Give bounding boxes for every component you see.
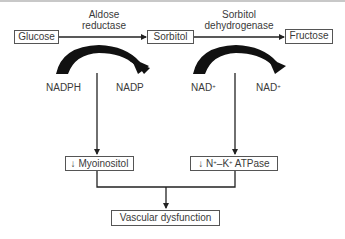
- node-fructose-label: Fructose: [290, 30, 329, 41]
- enzyme-aldose-reductase: Aldose reductase: [72, 9, 136, 31]
- decrease-arrow-icon: ↓: [71, 158, 76, 169]
- cofactor-nad-in-sup: +: [212, 83, 216, 89]
- atpase-sup1: +: [213, 159, 217, 165]
- curved-arrow-nadph-nadp-icon: [56, 45, 150, 74]
- enzyme-aldose-line2: reductase: [72, 20, 136, 31]
- node-glucose: Glucose: [14, 30, 59, 44]
- atpase-sup2: +: [229, 159, 233, 165]
- enzyme-sdh-line2: dehydrogenase: [196, 20, 282, 31]
- enzyme-aldose-line1: Aldose: [72, 9, 136, 20]
- cofactor-nad-in: NAD+: [191, 82, 216, 93]
- cofactor-nad-in-text: NAD: [191, 82, 212, 93]
- node-na-k-atpase: ↓ N+–K+ ATPase: [190, 156, 278, 171]
- enzyme-sdh-line1: Sorbitol: [196, 9, 282, 20]
- node-vascular-label: Vascular dysfunction: [120, 212, 212, 223]
- cofactor-nad-out-text: NAD: [256, 82, 277, 93]
- node-fructose: Fructose: [285, 29, 333, 44]
- atpase-k: –K: [217, 158, 229, 169]
- merge-connector: [97, 170, 235, 187]
- node-myoinositol-label: Myoinositol: [78, 158, 128, 169]
- curved-arrow-nad-icon: [193, 45, 286, 74]
- decrease-arrow-icon: ↓: [198, 158, 203, 169]
- node-myoinositol: ↓ Myoinositol: [65, 156, 134, 171]
- node-vascular-dysfunction: Vascular dysfunction: [111, 210, 220, 226]
- cofactor-nadp: NADP: [116, 82, 144, 93]
- cofactor-nad-out: NAD+: [256, 82, 281, 93]
- node-glucose-label: Glucose: [18, 31, 55, 42]
- cofactor-nadph: NADPH: [46, 82, 81, 93]
- cofactor-nad-out-sup: +: [277, 83, 281, 89]
- enzyme-sorbitol-dehydrogenase: Sorbitol dehydrogenase: [196, 9, 282, 31]
- node-sorbitol: Sorbitol: [147, 30, 194, 44]
- node-sorbitol-label: Sorbitol: [154, 31, 188, 42]
- atpase-suffix: ATPase: [233, 158, 270, 169]
